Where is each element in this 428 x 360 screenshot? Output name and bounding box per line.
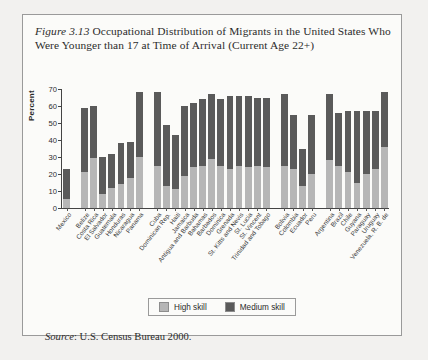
bar-segment-high-skill (290, 169, 297, 208)
legend-swatch-medium-skill-icon (225, 302, 235, 312)
bar-segment-high-skill (245, 167, 252, 208)
bar-trinidad-and-tobago (262, 89, 271, 208)
legend-item-medium-skill: Medium skill (225, 302, 285, 312)
bar-uruguay (371, 89, 380, 208)
bar-costa-rica (89, 89, 98, 208)
source-label: Source (45, 331, 74, 342)
figure-title: Figure 3.13 Occupational Distribution of… (35, 25, 391, 52)
legend-swatch-high-skill-icon (159, 302, 169, 312)
bar-segment-high-skill (90, 158, 97, 208)
bar-segment-medium-skill (381, 92, 388, 146)
stacked-bar (236, 96, 243, 208)
stacked-bar (108, 154, 115, 208)
stacked-bar (299, 149, 306, 209)
y-tick-label: 10 (49, 187, 57, 196)
bar-jamaica (180, 89, 189, 208)
bar-guyana (353, 89, 362, 208)
stacked-bar (181, 106, 188, 208)
bar-segment-medium-skill (326, 94, 333, 160)
bar-segment-medium-skill (118, 143, 125, 184)
bar-grenada (225, 89, 234, 208)
stacked-bar (190, 103, 197, 208)
y-axis-ticks: 010203040506070 (41, 89, 61, 208)
bar-segment-medium-skill (217, 99, 224, 165)
bar-segment-medium-skill (136, 92, 143, 157)
bar-segment-high-skill (181, 176, 188, 208)
figure-number: Figure 3.13 (35, 25, 89, 37)
source-note: Source: U.S. Census Bureau 2000. (45, 331, 191, 342)
bar-segment-high-skill (299, 186, 306, 208)
bar-segment-high-skill (190, 167, 197, 208)
bar-mexico (62, 89, 71, 208)
bar-segment-high-skill (345, 172, 352, 208)
stacked-bar (99, 157, 106, 208)
bar-haiti (171, 89, 180, 208)
bar-segment-high-skill (326, 160, 333, 208)
bar-segment-high-skill (217, 166, 224, 209)
bar-segment-medium-skill (281, 94, 288, 165)
bar-segment-medium-skill (254, 98, 261, 166)
bar-segment-high-skill (363, 174, 370, 208)
stacked-bar (263, 98, 270, 209)
y-tick-label: 20 (49, 170, 57, 179)
bar-guatemala (107, 89, 116, 208)
bar-segment-medium-skill (99, 157, 106, 194)
bar-segment-high-skill (99, 194, 106, 208)
bar-segment-medium-skill (299, 149, 306, 186)
bar-peru (307, 89, 316, 208)
source-text: : U.S. Census Bureau 2000. (74, 331, 191, 342)
stacked-bar (154, 92, 161, 208)
bar-antigua-and-barbuda (189, 89, 198, 208)
bar-segment-medium-skill (81, 108, 88, 173)
bar-segment-high-skill (381, 147, 388, 208)
figure-title-text: Occupational Distribution of Migrants in… (35, 25, 391, 51)
stacked-bar (227, 96, 234, 208)
y-tick-label: 60 (49, 102, 57, 111)
legend-label-high-skill: High skill (174, 303, 207, 312)
chart-legend: High skill Medium skill (148, 298, 296, 316)
stacked-bar (381, 92, 388, 208)
stacked-bar (127, 142, 134, 208)
y-tick-label: 30 (49, 153, 57, 162)
bar-segment-medium-skill (236, 96, 243, 166)
bar-series-container (62, 89, 389, 208)
bar-segment-medium-skill (345, 111, 352, 172)
bar-honduras (116, 89, 125, 208)
y-tick-label: 40 (49, 136, 57, 145)
bar-segment-medium-skill (363, 111, 370, 174)
stacked-bar (217, 99, 224, 208)
bar-cuba (153, 89, 162, 208)
chart-plot-area: Percent 010203040506070 (41, 89, 389, 217)
bar-belize (80, 89, 89, 208)
bar-segment-medium-skill (172, 135, 179, 189)
bar-segment-high-skill (372, 169, 379, 208)
bar-panama (135, 89, 144, 208)
bar-segment-medium-skill (208, 94, 215, 159)
stacked-bar (90, 106, 97, 208)
bar-segment-high-skill (236, 166, 243, 209)
bar-segment-high-skill (335, 166, 342, 209)
bar-paraguay (362, 89, 371, 208)
bar-segment-medium-skill (199, 99, 206, 165)
figure-frame: Figure 3.13 Occupational Distribution of… (22, 14, 402, 336)
y-tick-label: 70 (49, 85, 57, 94)
bar-segment-medium-skill (372, 111, 379, 169)
bar-chile (343, 89, 352, 208)
bar-segment-medium-skill (308, 115, 315, 175)
bar-segment-high-skill (118, 184, 125, 208)
stacked-bar (208, 94, 215, 208)
bar-argentina (325, 89, 334, 208)
bar-segment-high-skill (154, 166, 161, 209)
bar-brazil (334, 89, 343, 208)
legend-label-medium-skill: Medium skill (240, 303, 285, 312)
bar-segment-medium-skill (127, 142, 134, 179)
bar-segment-high-skill (199, 166, 206, 209)
bar-segment-high-skill (108, 188, 115, 208)
bar-segment-medium-skill (335, 113, 342, 166)
bar-segment-medium-skill (354, 111, 361, 182)
bar-segment-medium-skill (90, 106, 97, 158)
x-axis-labels: MexicoBelizeCosta RicaEl SalvadorGuatema… (62, 211, 389, 281)
bar-st-lucia (244, 89, 253, 208)
bar-segment-medium-skill (245, 96, 252, 167)
stacked-bar (136, 92, 143, 208)
